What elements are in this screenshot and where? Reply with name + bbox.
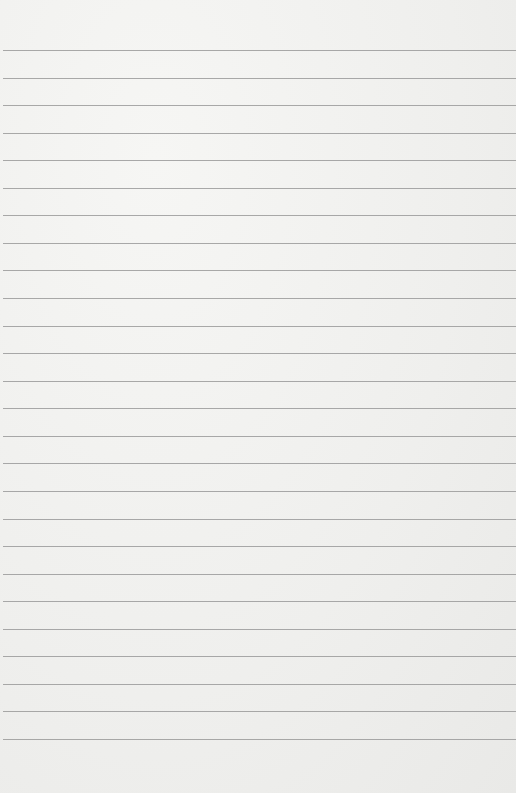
ruled-line xyxy=(3,739,516,740)
ruled-line xyxy=(3,629,516,630)
ruled-line xyxy=(3,574,516,575)
ruled-line xyxy=(3,463,516,464)
ruled-line xyxy=(3,133,516,134)
ruled-line xyxy=(3,270,516,271)
ruled-line xyxy=(3,656,516,657)
ruled-line xyxy=(3,491,516,492)
ruled-line xyxy=(3,215,516,216)
ruled-line xyxy=(3,601,516,602)
ruled-line xyxy=(3,105,516,106)
ruled-line xyxy=(3,50,516,51)
ruled-line xyxy=(3,78,516,79)
ruled-line xyxy=(3,188,516,189)
ruled-line xyxy=(3,436,516,437)
ruled-line xyxy=(3,326,516,327)
ruled-line xyxy=(3,298,516,299)
ruled-line xyxy=(3,160,516,161)
ruled-line xyxy=(3,519,516,520)
ruled-line xyxy=(3,381,516,382)
ruled-line xyxy=(3,711,516,712)
lined-paper-sheet xyxy=(0,0,516,793)
ruled-line xyxy=(3,243,516,244)
ruled-line xyxy=(3,353,516,354)
ruled-line xyxy=(3,408,516,409)
ruled-line xyxy=(3,546,516,547)
ruled-line xyxy=(3,684,516,685)
